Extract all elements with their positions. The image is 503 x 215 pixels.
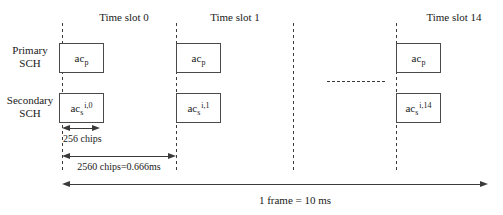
time-slot-0-label: Time slot 0 xyxy=(84,11,164,23)
primary-code-box-slot1: acp xyxy=(176,43,221,73)
code-base: ac xyxy=(192,52,202,64)
code-base: ac xyxy=(75,52,85,64)
secondary-code-box-slot1: acsi,1 xyxy=(176,93,221,123)
primary-code-text-slot14: acp xyxy=(412,52,426,64)
slot-duration-arrow xyxy=(62,153,176,160)
primary-sch-label-line2: SCH xyxy=(2,57,58,70)
secondary-sch-row-label: Secondary SCH xyxy=(2,94,58,120)
frame-duration-arrow xyxy=(62,181,488,188)
code-subscript: s xyxy=(80,108,83,117)
code-superscript: i,1 xyxy=(201,101,209,110)
slot-duration-label: 2560 chips=0.666ms xyxy=(62,161,176,172)
primary-sch-label-line1: Primary xyxy=(2,44,58,57)
arrow-line xyxy=(67,128,95,129)
arrowhead-right-icon xyxy=(168,153,176,159)
sch-frame-structure-diagram: Time slot 0 Time slot 1 Time slot 14 Pri… xyxy=(0,0,503,215)
code-superscript: i,0 xyxy=(84,101,92,110)
arrow-line xyxy=(67,156,171,157)
secondary-code-box-slot0: acsi,0 xyxy=(59,93,104,123)
secondary-sch-label-line2: SCH xyxy=(2,107,58,120)
frame-duration-label: 1 frame = 10 ms xyxy=(235,194,355,206)
primary-code-box-slot0: acp xyxy=(59,43,104,73)
secondary-code-box-slot14: acsi,14 xyxy=(396,93,441,123)
code-subscript: p xyxy=(421,58,425,67)
primary-code-box-slot14: acp xyxy=(396,43,441,73)
primary-sch-row-label: Primary SCH xyxy=(2,44,58,70)
code-base: ac xyxy=(412,52,422,64)
arrowhead-right-icon xyxy=(480,181,488,187)
code-base: ac xyxy=(70,102,80,114)
slot-boundary-line-2 xyxy=(293,23,294,170)
time-slot-1-label: Time slot 1 xyxy=(195,11,275,23)
chips-256-arrow xyxy=(62,125,100,132)
primary-code-text-slot0: acp xyxy=(75,52,89,64)
code-base: ac xyxy=(187,102,197,114)
code-base: ac xyxy=(405,102,415,114)
secondary-code-text-slot14: acsi,14 xyxy=(405,102,431,114)
chips-256-label: 256 chips xyxy=(63,133,102,144)
secondary-code-text-slot1: acsi,1 xyxy=(187,102,209,114)
time-slot-14-label: Time slot 14 xyxy=(414,11,494,23)
code-subscript: s xyxy=(415,108,418,117)
code-superscript: i,14 xyxy=(419,101,431,110)
code-subscript: s xyxy=(197,108,200,117)
omitted-slots-ellipsis-line xyxy=(327,81,387,82)
code-subscript: p xyxy=(84,58,88,67)
arrow-line xyxy=(67,184,483,185)
secondary-code-text-slot0: acsi,0 xyxy=(70,102,92,114)
primary-code-text-slot1: acp xyxy=(192,52,206,64)
arrowhead-right-icon xyxy=(92,125,100,131)
code-subscript: p xyxy=(201,58,205,67)
secondary-sch-label-line1: Secondary xyxy=(2,94,58,107)
